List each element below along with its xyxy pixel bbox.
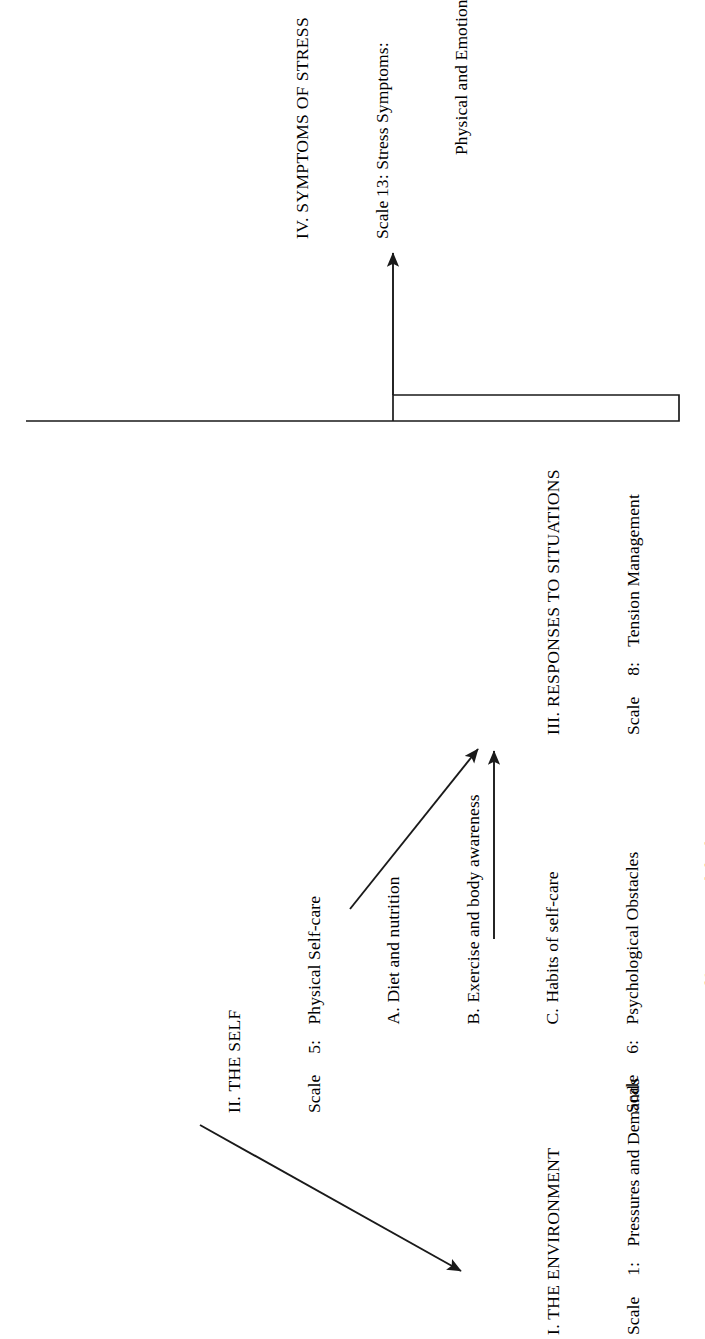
section-self-heading: II. THE SELF bbox=[221, 794, 248, 1113]
entry-scale-8: Scale8: Tension Management bbox=[620, 445, 647, 735]
section-symptoms-numeral: IV. bbox=[292, 217, 312, 239]
entry-scale-5-sub-a: A.Diet and nutrition bbox=[380, 794, 407, 1113]
entry-scale-13: Scale13: Stress Symptoms: bbox=[369, 0, 396, 239]
entry-scale-5-sub-b: B.Exercise and body awareness bbox=[460, 794, 487, 1113]
entry-scale-13-continuation: Physical and Emotional bbox=[448, 0, 475, 239]
rotated-diagram-wrapper: I. THE ENVIRONMENT Scale1: Pressures and… bbox=[0, 0, 705, 1339]
entry-scale-5-sub-c: C.Habits of self-care bbox=[539, 794, 566, 1113]
section-responses-heading: III. RESPONSES TO SITUATIONS bbox=[540, 445, 567, 735]
entry-scale-5-label: Physical Self-care bbox=[304, 896, 324, 1025]
section-self-title: THE SELF bbox=[224, 1009, 244, 1091]
section-symptoms-heading: IV. SYMPTOMS OF STRESS bbox=[289, 0, 316, 239]
entry-scale-6: Scale6: Psychological Obstacles bbox=[619, 794, 646, 1113]
entry-scale-13-label: Stress Symptoms: bbox=[372, 42, 392, 170]
entry-scale-8-label: Tension Management bbox=[623, 494, 643, 647]
section-self-numeral: II. bbox=[224, 1096, 244, 1113]
section-symptoms-title: SYMPTOMS OF STRESS bbox=[292, 17, 312, 213]
section-symptoms: IV. SYMPTOMS OF STRESS Scale13: Stress S… bbox=[236, 0, 528, 239]
section-self: II. THE SELF Scale5: Physical Self-care … bbox=[168, 794, 705, 1113]
section-responses-numeral: III. bbox=[543, 712, 563, 735]
connector-bracket-to-symptoms-icon bbox=[26, 253, 679, 421]
section-responses: III. RESPONSES TO SITUATIONS Scale8: Ten… bbox=[487, 445, 705, 735]
section-environment-title: THE ENVIRONMENT bbox=[543, 1148, 563, 1320]
connector-self-to-environment-icon bbox=[200, 1125, 461, 1271]
section-responses-title: RESPONSES TO SITUATIONS bbox=[543, 469, 563, 707]
entry-scale-6-sub-a: A.Self-criticism and doubt bbox=[698, 794, 705, 1113]
entry-scale-9: Scale9: Time Management bbox=[699, 445, 705, 735]
entry-scale-6-label: Psychological Obstacles bbox=[622, 852, 642, 1025]
entry-scale-5: Scale5: Physical Self-care bbox=[301, 794, 328, 1113]
section-environment-numeral: I. bbox=[543, 1324, 563, 1335]
diagram-canvas: I. THE ENVIRONMENT Scale1: Pressures and… bbox=[0, 0, 705, 1339]
